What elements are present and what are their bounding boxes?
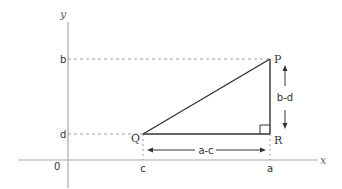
coordinate-diagram: b-d a-c y x 0 b d c a P Q R (0, 0, 342, 189)
dimension-arrow-vertical: b-d (277, 65, 293, 129)
right-angle-marker (260, 125, 270, 134)
point-label-P: P (274, 53, 282, 66)
tick-label-a: a (267, 163, 273, 174)
tick-label-c: c (140, 163, 146, 174)
y-axis-label: y (59, 8, 67, 21)
point-label-R: R (274, 134, 283, 147)
tick-label-d: d (60, 129, 66, 140)
x-axis-label: x (320, 154, 327, 167)
hypotenuse-PQ (143, 59, 270, 134)
dimension-label-horizontal: a-c (198, 145, 213, 156)
dimension-arrow-horizontal: a-c (147, 145, 266, 156)
origin-label: 0 (54, 161, 60, 172)
dimension-label-vertical: b-d (277, 92, 293, 103)
tick-label-b: b (60, 54, 66, 65)
point-label-Q: Q (131, 132, 140, 145)
